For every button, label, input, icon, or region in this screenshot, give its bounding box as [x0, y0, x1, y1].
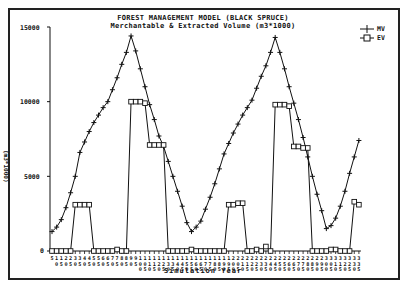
legend-item-mv: MV — [360, 24, 385, 33]
svg-text:0: 0 — [129, 261, 132, 267]
svg-text:0: 0 — [64, 261, 67, 267]
svg-text:5: 5 — [116, 261, 119, 267]
plus-marker-icon — [360, 25, 374, 33]
svg-text:5: 5 — [60, 261, 63, 267]
svg-text:0: 0 — [111, 261, 114, 267]
svg-text:5: 5 — [134, 261, 137, 267]
svg-text:5: 5 — [69, 261, 72, 267]
svg-text:0: 0 — [92, 261, 95, 267]
legend: MV EV — [360, 24, 385, 42]
svg-text:5: 5 — [125, 261, 128, 267]
svg-text:5: 5 — [78, 261, 81, 267]
svg-text:0: 0 — [102, 261, 105, 267]
svg-text:0: 0 — [120, 261, 123, 267]
plot-area: 5101520253035404550556065707580859095100… — [0, 0, 406, 285]
square-marker-icon — [360, 34, 374, 42]
legend-label-ev: EV — [377, 34, 385, 42]
legend-label-mv: MV — [377, 25, 385, 33]
legend-item-ev: EV — [360, 33, 385, 42]
svg-text:5: 5 — [97, 261, 100, 267]
svg-text:0: 0 — [83, 261, 86, 267]
svg-text:5: 5 — [88, 261, 91, 267]
mv-line — [52, 36, 359, 232]
svg-text:5: 5 — [106, 261, 109, 267]
svg-text:5: 5 — [50, 255, 53, 261]
svg-text:0: 0 — [55, 261, 58, 267]
svg-text:0: 0 — [74, 261, 77, 267]
x-axis-title: Simulation Year — [0, 267, 406, 275]
